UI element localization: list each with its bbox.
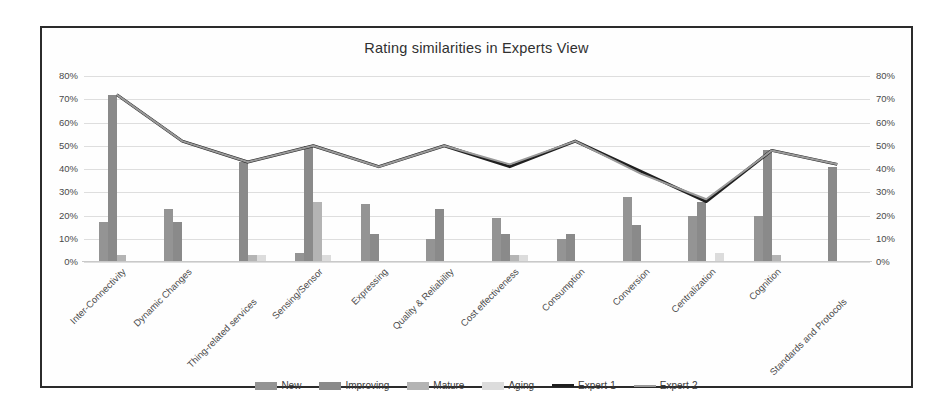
- y-tick-label-left: 70%: [59, 95, 78, 105]
- chart-title: Rating similarities in Experts View: [42, 40, 911, 56]
- y-tick-label-right: 70%: [876, 95, 895, 105]
- legend-label-aging: Aging: [508, 380, 534, 391]
- x-category-label-text: Cost effectiveness: [458, 266, 521, 329]
- y-tick-label-left: 20%: [59, 211, 78, 221]
- x-category-label-text: Centralization: [668, 266, 717, 315]
- legend-item-new[interactable]: New: [255, 380, 301, 391]
- x-category-label-text: Thing-related services: [185, 296, 259, 370]
- y-tick-label-left: 80%: [59, 71, 78, 81]
- y-tick-label-right: 10%: [876, 234, 895, 244]
- legend-label-new: New: [281, 380, 301, 391]
- line-expert-1: [117, 95, 838, 202]
- legend-item-expert2[interactable]: Expert-2: [634, 380, 698, 391]
- y-tick-label-right: 30%: [876, 188, 895, 198]
- legend-item-improving[interactable]: Improving: [319, 380, 389, 391]
- x-category-label-text: Consumption: [539, 266, 586, 313]
- legend-label-improving: Improving: [345, 380, 389, 391]
- legend-swatch-expert2: [634, 385, 656, 387]
- legend-item-aging[interactable]: Aging: [482, 380, 534, 391]
- x-category-label-text: Conversion: [610, 266, 652, 308]
- x-category-label-text: Inter-Connectivity: [68, 266, 128, 326]
- legend-item-expert1[interactable]: Expert-1: [552, 380, 616, 391]
- legend-swatch-mature: [407, 382, 429, 390]
- legend-label-expert2: Expert-2: [660, 380, 698, 391]
- y-tick-label-right: 60%: [876, 118, 895, 128]
- y-tick-label-left: 10%: [59, 234, 78, 244]
- x-category-label-text: Cognition: [747, 266, 783, 302]
- y-tick-label-left: 30%: [59, 188, 78, 198]
- legend-swatch-expert1: [552, 384, 574, 387]
- legend-swatch-new: [255, 382, 277, 390]
- y-tick-label-right: 20%: [876, 211, 895, 221]
- chart-frame: Rating similarities in Experts View 80%7…: [40, 26, 913, 388]
- y-tick-label-left: 60%: [59, 118, 78, 128]
- legend-swatch-improving: [319, 382, 341, 390]
- x-category-label-text: Standards and Protocols: [767, 296, 848, 377]
- y-tick-label-left: 50%: [59, 141, 78, 151]
- chart-legend: NewImprovingMatureAgingExpert-1Expert-2: [42, 380, 911, 391]
- x-category-label-text: Expressing: [349, 266, 390, 307]
- legend-label-mature: Mature: [433, 380, 464, 391]
- x-category-label-text: Dynamic Changes: [131, 266, 194, 329]
- x-category-label-text: Quality & Reliability: [390, 266, 456, 332]
- y-tick-label-left: 0%: [64, 257, 78, 267]
- y-tick-label-right: 40%: [876, 164, 895, 174]
- y-tick-label-right: 50%: [876, 141, 895, 151]
- y-tick-label-left: 40%: [59, 164, 78, 174]
- legend-swatch-aging: [482, 382, 504, 390]
- legend-item-mature[interactable]: Mature: [407, 380, 464, 391]
- legend-label-expert1: Expert-1: [578, 380, 616, 391]
- x-axis-category-labels: Inter-ConnectivityDynamic ChangesThing-r…: [84, 266, 870, 376]
- y-tick-label-right: 80%: [876, 71, 895, 81]
